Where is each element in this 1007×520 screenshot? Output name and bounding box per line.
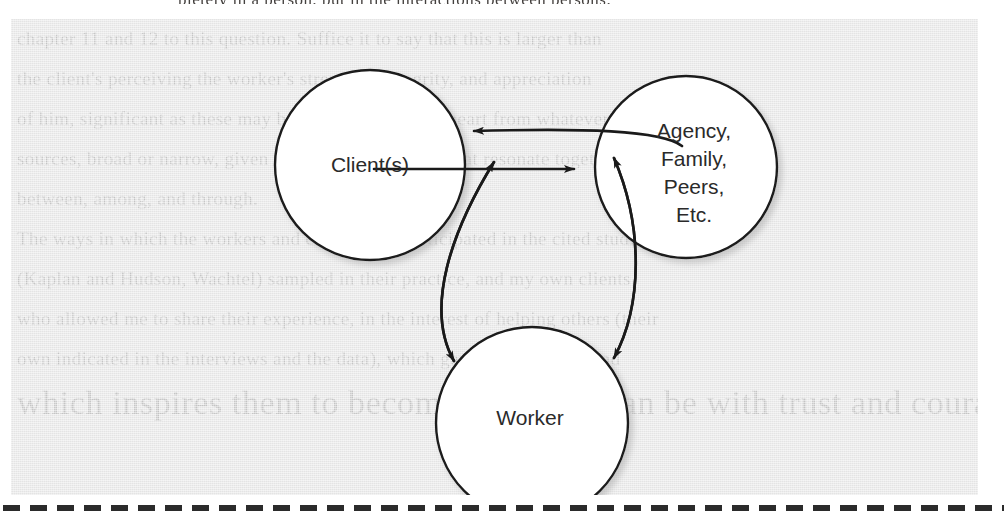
dashed-separator-rule	[3, 505, 1004, 511]
node-label-client: Client(s)	[331, 153, 409, 176]
top-text-sliver-line: pletely in a person, but in the interact…	[0, 0, 611, 4]
node-label-worker: Worker	[496, 406, 563, 429]
scanned-page: pletely in a person, but in the interact…	[0, 0, 1007, 520]
helping-process-diagram: Client(s) Agency, Family, Peers, Etc. Wo…	[11, 19, 978, 495]
node-label-agency-line-1: Agency,	[657, 119, 731, 142]
figure-panel: chapter 11 and 12 to this question. Suff…	[11, 19, 978, 495]
top-text-sliver: pletely in a person, but in the interact…	[0, 0, 1007, 4]
node-label-agency-line-2: Family,	[661, 147, 727, 170]
node-label-agency-line-3: Peers,	[664, 175, 725, 198]
node-label-agency-line-4: Etc.	[676, 203, 712, 226]
